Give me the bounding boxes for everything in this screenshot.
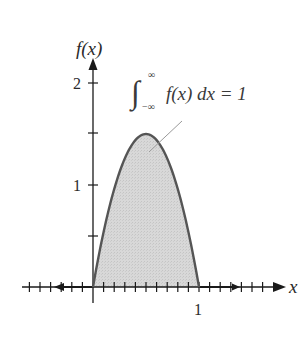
integral-annotation: ∫ ∞ −∞ f(x) dx = 1	[129, 69, 247, 112]
y-tick-label-1: 1	[73, 177, 81, 194]
x-axis-label: x	[288, 276, 298, 297]
integral-sign: ∫	[129, 74, 142, 112]
integral-upper-limit: ∞	[148, 69, 155, 80]
y-axis-label: f(x)	[76, 38, 102, 60]
probability-density-chart: f(x) 2 1 1 x ∫ ∞ −∞ f(x) dx = 1	[0, 0, 302, 339]
y-tick-label-2: 2	[73, 75, 81, 92]
integral-lower-limit: −∞	[142, 101, 155, 112]
x-axis-arrow-icon	[273, 282, 286, 292]
x-tick-label-1: 1	[194, 301, 202, 318]
x-axis-inner-arrow-icon	[232, 284, 240, 291]
y-axis-arrow-icon	[89, 58, 98, 70]
integral-expression: f(x) dx = 1	[166, 83, 247, 105]
